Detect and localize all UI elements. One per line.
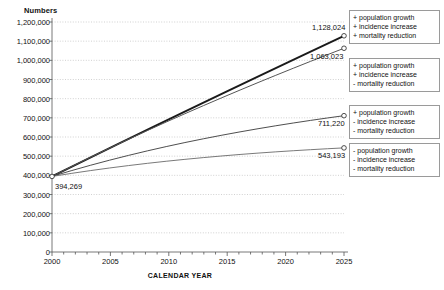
legend-1-line-2: + incidence increase [353,70,436,79]
series-endpoint-marker-3 [342,146,347,151]
data-label-start: 394,269 [55,182,82,191]
series-line-1 [52,48,344,176]
series-line-3 [52,148,344,177]
legend-0-line-2: + incidence increase [353,22,436,31]
data-label-series-1: 1,063,023 [310,52,343,61]
legend-0-line-1: + population growth [353,13,436,22]
legend-3-line-1: - population growth [353,146,436,155]
legend-item-1[interactable]: + population growth + incidence increase… [349,58,440,92]
legend-1-line-3: - mortality reduction [353,79,436,88]
legend-item-0[interactable]: + population growth + incidence increase… [349,10,440,44]
legend-1-line-1: + population growth [353,61,436,70]
legend-2-line-3: - mortality reduction [353,126,436,135]
legend-item-2[interactable]: + population growth - incidence increase… [349,105,440,139]
legend-2-line-2: - incidence increase [353,117,436,126]
legend-0-line-3: + mortality reduction [353,31,436,40]
series-endpoint-marker-1 [342,46,347,51]
chart-container: Numbers 0100,000200,000300,000400,000500… [0,0,444,290]
data-label-series-3: 543,193 [318,151,345,160]
legend-3-line-2: - incidence increase [353,155,436,164]
series-line-0 [52,36,344,177]
legend-3-line-3: - mortality reduction [353,164,436,173]
series-endpoint-marker-2 [342,113,347,118]
series-line-2 [52,116,344,177]
legend-item-3[interactable]: - population growth - incidence increase… [349,143,440,177]
series-endpoint-marker-0 [342,33,347,38]
data-label-series-0: 1,128,024 [312,23,345,32]
legend-2-line-1: + population growth [353,108,436,117]
series-origin-marker [50,174,55,179]
data-label-series-2: 711,220 [318,119,345,128]
